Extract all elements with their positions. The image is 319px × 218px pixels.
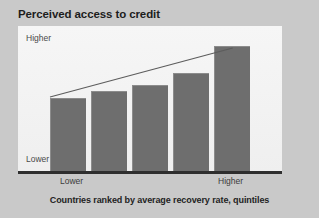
x-axis-line <box>18 171 282 174</box>
chart-title: Perceived access to credit <box>18 8 160 20</box>
x-axis-label-lower: Lower <box>60 176 83 186</box>
x-axis-label-higher: Higher <box>218 176 243 186</box>
trend-line-segment <box>50 48 233 97</box>
y-axis-label-lower: Lower <box>26 154 49 164</box>
chart-caption: Countries ranked by average recovery rat… <box>0 195 319 205</box>
trend-line <box>18 26 282 172</box>
chart-figure: Perceived access to credit Higher Lower … <box>0 0 319 218</box>
y-axis-label-higher: Higher <box>26 33 51 43</box>
